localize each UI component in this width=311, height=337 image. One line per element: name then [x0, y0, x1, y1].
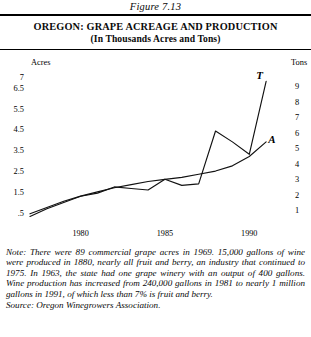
y-axis-left-title: Acres: [31, 58, 51, 67]
series-line-tons: [30, 81, 266, 216]
series-label-tons: T: [256, 69, 264, 81]
chart-area: Acres .51.52.53.54.55.56.57 Tons 1234567…: [0, 50, 311, 246]
axis-tick-label: 1: [295, 206, 299, 215]
axis-tick-label: 6.5: [14, 83, 24, 92]
grape-acreage-production-line-chart: Acres .51.52.53.54.55.56.57 Tons 1234567…: [0, 50, 311, 246]
page-title: OREGON: GRAPE ACREAGE AND PRODUCTION: [4, 21, 307, 33]
note-body: There were 89 commercial grape acres in …: [6, 247, 305, 299]
axis-tick-label: 5.5: [14, 104, 24, 113]
y-axis-right-title: Tons: [291, 58, 307, 67]
note-paragraph: Note: There were 89 commercial grape acr…: [0, 246, 311, 300]
axis-tick-label: 2.5: [14, 167, 24, 176]
axis-tick-label: 7: [295, 113, 299, 122]
axis-tick-label: 1.5: [14, 188, 24, 197]
axis-tick-label: 6: [295, 128, 299, 137]
title-block: OREGON: GRAPE ACREAGE AND PRODUCTION (In…: [0, 16, 311, 49]
note-prefix: Note:: [6, 247, 26, 257]
axis-tick-label: .5: [18, 208, 24, 217]
page-subtitle: (In Thousands Acres and Tons): [4, 33, 307, 45]
axis-tick-label: 9: [295, 82, 299, 91]
axis-tick-label: 1980: [72, 229, 88, 238]
axis-tick-label: 1990: [241, 229, 257, 238]
figure-caption: Figure 7.13: [0, 0, 311, 14]
series-line-acres: [30, 142, 266, 214]
axis-tick-label: 2: [295, 190, 299, 199]
axis-tick-label: 4: [295, 159, 300, 168]
y-axis-left-ticks: .51.52.53.54.55.56.57: [14, 73, 24, 218]
axis-tick-label: 3: [295, 175, 299, 184]
figure-sheet: Figure 7.13 OREGON: GRAPE ACREAGE AND PR…: [0, 0, 311, 337]
y-axis-left: Acres .51.52.53.54.55.56.57: [14, 58, 51, 218]
y-axis-right-ticks: 123456789: [295, 82, 300, 215]
axis-tick-label: 5: [295, 144, 299, 153]
axis-tick-label: 7: [20, 73, 24, 82]
axis-tick-label: 3.5: [14, 146, 24, 155]
y-axis-right: Tons 123456789: [291, 58, 307, 215]
axis-tick-label: 4.5: [14, 125, 24, 134]
x-axis-ticks: 198019851990: [72, 229, 257, 238]
note-source: Source: Oregon Winegrowers Association.: [0, 300, 311, 311]
series-label-acres: A: [267, 133, 275, 145]
axis-tick-label: 1985: [157, 229, 173, 238]
axis-tick-label: 8: [295, 97, 299, 106]
